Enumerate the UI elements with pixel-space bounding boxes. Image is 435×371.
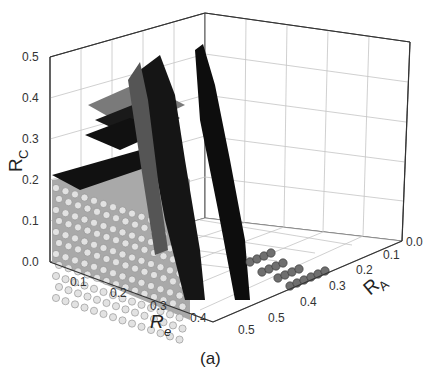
svg-text:0.4: 0.4 [300, 295, 317, 309]
svg-text:0.0: 0.0 [22, 255, 39, 269]
svg-text:e: e [164, 324, 171, 339]
chart-3d-scatter: 0.5 0.4 0.3 0.2 0.1 0.0 R C 0.1 0.2 0.3 … [0, 0, 435, 371]
svg-text:C: C [16, 150, 31, 159]
svg-text:0.4: 0.4 [190, 311, 207, 325]
svg-text:R: R [5, 158, 26, 172]
svg-text:0.3: 0.3 [329, 279, 346, 293]
svg-text:0.1: 0.1 [70, 275, 87, 289]
svg-text:0.1: 0.1 [22, 214, 39, 228]
svg-text:R: R [150, 311, 164, 332]
svg-text:0.2: 0.2 [22, 173, 39, 187]
svg-text:0.2: 0.2 [110, 286, 127, 300]
svg-text:0.4: 0.4 [22, 91, 39, 105]
svg-text:0.5: 0.5 [238, 323, 255, 337]
figure-caption: (a) [200, 349, 221, 368]
svg-text:0.5: 0.5 [22, 50, 39, 64]
svg-text:0.1: 0.1 [383, 248, 400, 262]
svg-text:0.2: 0.2 [356, 263, 373, 277]
svg-text:0.3: 0.3 [22, 132, 39, 146]
z-axis-label: R C [5, 150, 31, 172]
svg-text:0.0: 0.0 [406, 235, 423, 249]
svg-text:0.5: 0.5 [268, 311, 285, 325]
